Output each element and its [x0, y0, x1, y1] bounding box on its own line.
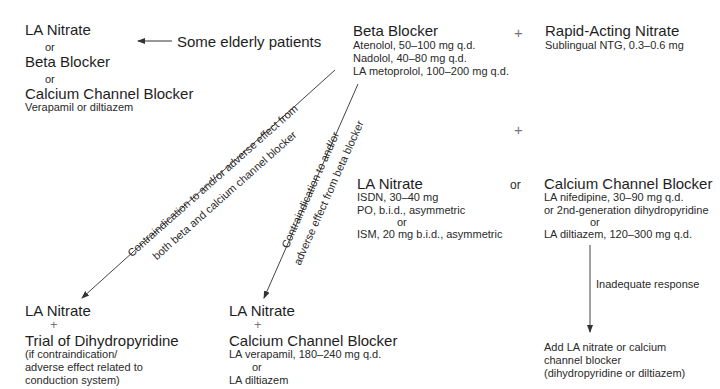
bottom-ccb-line: LA verapamil, 180–240 mg q.d. [229, 348, 381, 361]
la-nitrate-line: PO, b.i.d., asymmetric [357, 204, 465, 217]
plus-sign: + [514, 121, 523, 138]
option-beta-blocker: Beta Blocker [25, 53, 110, 70]
beta-dose: LA metoprolol, 100–200 mg q.d. [353, 65, 509, 78]
ccb-title: Calcium Channel Blocker [544, 175, 712, 192]
or-label: or [510, 179, 521, 192]
trial-dihydropyridine-title: Trial of Dihydropyridine [25, 332, 179, 349]
ccb-line: LA diltiazem, 120–300 mg q.d. [544, 228, 692, 241]
rapid-nitrate-title: Rapid-Acting Nitrate [545, 22, 679, 39]
ccb-line: or 2nd-generation dihydropyridine [544, 204, 709, 217]
beta-dose: Nadolol, 40–80 mg q.d. [353, 52, 467, 65]
ccb-line: LA nifedipine, 30–90 mg q.d. [544, 191, 683, 204]
add-line: Add LA nitrate or calcium [544, 341, 666, 354]
plus-sign: + [514, 24, 523, 41]
bottom-left-title: LA Nitrate [25, 302, 91, 319]
la-nitrate-title: LA Nitrate [357, 175, 423, 192]
bottom-ccb-line: LA diltiazem [229, 374, 288, 387]
trial-line: conduction system) [25, 374, 120, 387]
plus-sign: + [50, 318, 58, 331]
option-la-nitrate: LA Nitrate [25, 21, 91, 38]
option-ccb-detail: Verapamil or diltiazem [25, 101, 133, 114]
add-line: channel blocker [544, 354, 621, 367]
option-calcium-channel-blocker: Calcium Channel Blocker [25, 85, 193, 102]
rapid-nitrate-detail: Sublingual NTG, 0.3–0.6 mg [545, 39, 684, 52]
elderly-patients-label: Some elderly patients [177, 33, 321, 50]
beta-blocker-title: Beta Blocker [353, 22, 438, 39]
trial-line: (if contraindication/ [25, 348, 117, 361]
la-nitrate-line: ISDN, 30–40 mg [357, 191, 438, 204]
trial-line: adverse effect related to [25, 361, 143, 374]
bottom-mid-title: LA Nitrate [229, 302, 295, 319]
add-line: (dihydropyridine or diltiazem) [544, 367, 685, 380]
bottom-ccb-title: Calcium Channel Blocker [229, 332, 397, 349]
beta-dose: Atenolol, 50–100 mg q.d. [353, 39, 475, 52]
plus-sign: + [254, 318, 262, 331]
inadequate-response-label: Inadequate response [596, 278, 699, 291]
la-nitrate-line: ISM, 20 mg b.i.d., asymmetric [357, 228, 502, 241]
bottom-ccb-line: or [252, 361, 262, 374]
